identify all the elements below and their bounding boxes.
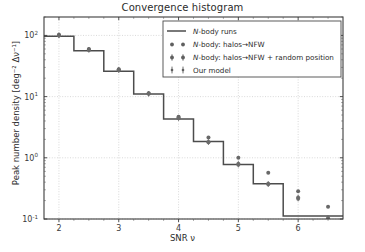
legend-item-label: N-body: halos→NFW + random position <box>193 53 334 62</box>
svg-text:5: 5 <box>236 224 241 233</box>
svg-text:4: 4 <box>176 224 181 233</box>
legend-item-label: N-body: halos→NFW <box>193 40 265 49</box>
y-axis-label-text: Peak number density [deg⁻² Δν⁻¹] <box>11 41 21 185</box>
legend-item-label: N-body runs <box>193 27 237 36</box>
legend[interactable]: N-body runsN-body: halos→NFWN-body: halo… <box>163 21 341 77</box>
svg-text:2: 2 <box>56 224 61 233</box>
svg-text:101: 101 <box>24 91 38 101</box>
svg-text:6: 6 <box>296 224 301 233</box>
figure-container: Convergence histogram 23456 10-110010110… <box>0 0 365 252</box>
legend-item-label: Our model <box>193 66 231 75</box>
svg-text:102: 102 <box>24 30 38 40</box>
x-axis-label-text: SNR ν <box>170 233 195 243</box>
svg-text:10-1: 10-1 <box>22 214 38 224</box>
svg-text:100: 100 <box>24 152 38 162</box>
plot-area: 23456 10-1100101102 N-body runsN-body: h… <box>0 0 365 252</box>
legend-item[interactable]: N-body: halos→NFW + random position <box>170 53 334 62</box>
svg-text:3: 3 <box>116 224 121 233</box>
x-axis-label: SNR ν <box>0 233 365 243</box>
y-axis-label: Peak number density [deg⁻² Δν⁻¹] <box>11 13 21 213</box>
